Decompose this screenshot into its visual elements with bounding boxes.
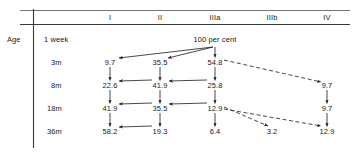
column-header-IIIa: IIIa	[210, 14, 221, 22]
cell-origin-100-per-cent: 100 per cent	[194, 36, 237, 44]
cell-36m-I: 58.2	[103, 128, 118, 136]
dashed-transition-arrows	[224, 60, 321, 126]
row-header-36m: 36m	[47, 128, 62, 136]
cell-8m-IV: 9.7	[322, 82, 333, 90]
column-header-IIIb: IIIb	[267, 14, 278, 22]
cell-18m-IV: 9.7	[322, 105, 333, 113]
cell-36m-II: 19.3	[153, 128, 168, 136]
table-rules	[20, 9, 350, 148]
cell-8m-I: 22.6	[103, 82, 118, 90]
vertical-transition-arrows	[110, 67, 327, 127]
cell-18m-IIIa: 12.9	[208, 105, 223, 113]
cell-36m-IV: 12.9	[320, 128, 335, 136]
cell-3m-II: 35.5	[153, 59, 168, 67]
fanout-arrows-origin	[119, 47, 215, 58]
cell-36m-IIIb: 3.2	[267, 128, 278, 136]
column-header-II: II	[158, 14, 162, 22]
cell-18m-II: 35.5	[153, 105, 168, 113]
cell-3m-IIIa: 54.8	[208, 59, 223, 67]
cell-3m-I: 9.7	[105, 59, 116, 67]
cell-36m-IIIa: 6.4	[210, 128, 221, 136]
row-header-8m: 8m	[51, 82, 62, 90]
column-header-I: I	[109, 14, 111, 22]
row-header-1-week: 1 week	[44, 36, 68, 44]
axis-title-age: Age	[7, 36, 21, 44]
transition-diagram-figure: Age I II IIIa IIIb IV 1 week 3m 8m 18m 3…	[0, 0, 354, 152]
cell-8m-II: 41.9	[153, 82, 168, 90]
column-header-IV: IV	[323, 14, 330, 22]
row-header-18m: 18m	[47, 105, 62, 113]
cell-8m-IIIa: 25.8	[208, 82, 223, 90]
cell-18m-I: 41.9	[103, 105, 118, 113]
row-header-3m: 3m	[51, 59, 62, 67]
